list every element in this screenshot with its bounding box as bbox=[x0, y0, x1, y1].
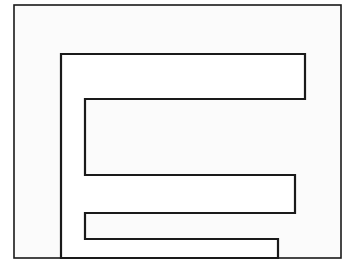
line-drawing-svg bbox=[0, 0, 352, 269]
figure-canvas bbox=[0, 0, 352, 269]
